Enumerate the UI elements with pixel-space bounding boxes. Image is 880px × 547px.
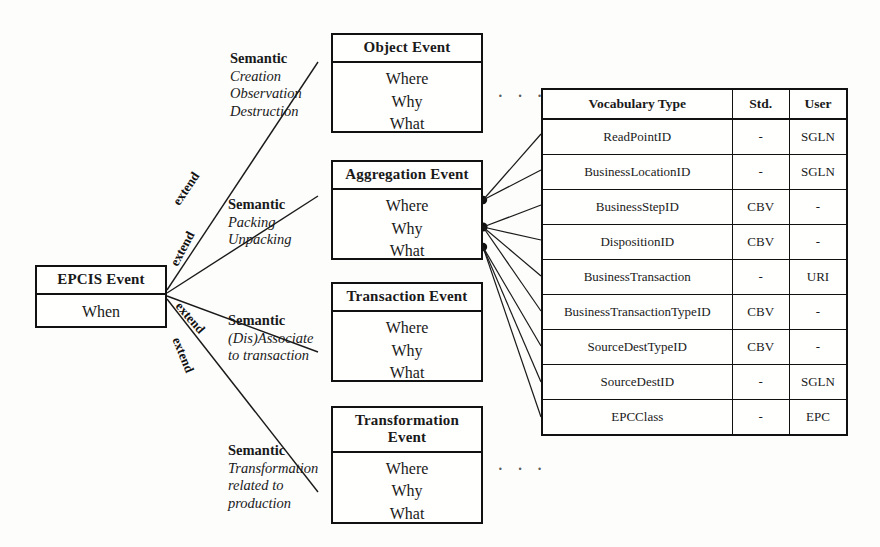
- transformation-event-title: Transformation Event: [333, 408, 481, 453]
- vocabulary-table-header-row: Vocabulary Type Std. User: [542, 89, 847, 119]
- transaction-event-body: Where Why What: [333, 312, 481, 391]
- cell-user: SGLN: [789, 119, 847, 155]
- cell-user: URI: [789, 260, 847, 295]
- object-event-body: Where Why What: [333, 63, 481, 142]
- semantic-note-aggregation: Semantic Packing Unpacking: [228, 196, 346, 249]
- cell-std: -: [732, 260, 789, 295]
- semantic-item-disassociate: (Dis)Associate: [228, 330, 346, 348]
- cell-user: -: [789, 330, 847, 365]
- semantic-item-transformation: Transformation: [228, 460, 346, 478]
- table-row: SourceDestTypeIDCBV-: [542, 330, 847, 365]
- epcis-event-box[interactable]: EPCIS Event When: [35, 265, 167, 328]
- cell-vocabulary-type: BusinessStepID: [542, 190, 732, 225]
- column-header-std: Std.: [732, 89, 789, 119]
- cell-vocabulary-type: BusinessLocationID: [542, 155, 732, 190]
- table-row: DispositionIDCBV-: [542, 225, 847, 260]
- table-row: BusinessLocationID-SGLN: [542, 155, 847, 190]
- cell-user: -: [789, 190, 847, 225]
- column-header-vocabulary-type: Vocabulary Type: [542, 89, 732, 119]
- edge-where-businesslocationid: [483, 170, 541, 200]
- edge-why-businesstransactiontypeid: [483, 227, 541, 311]
- cell-std: -: [732, 400, 789, 436]
- semantic-item-observation: Observation: [230, 85, 348, 103]
- epcis-event-attribute-when: When: [39, 301, 163, 324]
- semantic-item-packing: Packing: [228, 214, 346, 232]
- transformation-event-body: Where Why What: [333, 453, 481, 532]
- object-event-title-line: Object Event: [335, 39, 479, 56]
- aggregation-event-body: Where Why What: [333, 190, 481, 269]
- edge-what-sourcedesttypeid: [483, 247, 541, 346]
- vocabulary-type-table: Vocabulary Type Std. User ReadPointID-SG…: [541, 88, 848, 436]
- object-event-attribute-what: What: [335, 113, 479, 136]
- transaction-event-title-line: Transaction Event: [335, 288, 479, 305]
- edge-where-readpointid: [483, 134, 541, 200]
- transformation-event-title-line-2: Event: [335, 429, 479, 446]
- cell-std: CBV: [732, 295, 789, 330]
- ellipsis-bottom: · · ·: [497, 458, 547, 481]
- transformation-event-title-line-1: Transformation: [335, 412, 479, 429]
- extend-label-transformation: extend: [169, 335, 198, 375]
- semantic-item-related-to: related to: [228, 477, 346, 495]
- object-event-box[interactable]: Object Event Where Why What: [331, 33, 483, 133]
- semantic-note-transformation: Semantic Transformation related to produ…: [228, 442, 346, 513]
- table-row: ReadPointID-SGLN: [542, 119, 847, 155]
- where-vocab-edges: [483, 134, 541, 200]
- semantic-note-object: Semantic Creation Observation Destructio…: [230, 50, 348, 121]
- cell-vocabulary-type: ReadPointID: [542, 119, 732, 155]
- epcis-event-title: EPCIS Event: [37, 267, 165, 295]
- transformation-event-box[interactable]: Transformation Event Where Why What: [331, 406, 483, 524]
- cell-std: CBV: [732, 330, 789, 365]
- table-row: SourceDestID-SGLN: [542, 365, 847, 400]
- cell-std: CBV: [732, 225, 789, 260]
- transformation-event-attribute-what: What: [335, 503, 479, 526]
- semantic-item-destruction: Destruction: [230, 103, 348, 121]
- transaction-event-title: Transaction Event: [333, 284, 481, 312]
- object-event-attribute-why: Why: [335, 91, 479, 114]
- extend-label-object: extend: [169, 169, 203, 208]
- transformation-event-attribute-why: Why: [335, 480, 479, 503]
- diagram-canvas: extend extend extend extend EPCIS Event …: [0, 0, 880, 547]
- transaction-event-box[interactable]: Transaction Event Where Why What: [331, 282, 483, 382]
- cell-vocabulary-type: BusinessTransactionTypeID: [542, 295, 732, 330]
- semantic-heading-transaction: Semantic: [228, 312, 346, 330]
- transformation-event-attribute-where: Where: [335, 458, 479, 481]
- table-row: BusinessTransaction-URI: [542, 260, 847, 295]
- aggregation-event-box[interactable]: Aggregation Event Where Why What: [331, 160, 483, 260]
- transaction-event-attribute-what: What: [335, 362, 479, 385]
- epcis-event-body: When: [37, 295, 165, 328]
- cell-vocabulary-type: BusinessTransaction: [542, 260, 732, 295]
- extend-label-transaction: extend: [172, 299, 208, 337]
- vocabulary-table-body: ReadPointID-SGLNBusinessLocationID-SGLNB…: [542, 119, 847, 435]
- semantic-note-transaction: Semantic (Dis)Associate to transaction: [228, 312, 346, 365]
- semantic-item-unpacking: Unpacking: [228, 231, 346, 249]
- cell-vocabulary-type: SourceDestTypeID: [542, 330, 732, 365]
- extend-label-aggregation: extend: [167, 229, 198, 269]
- semantic-heading-transformation: Semantic: [228, 442, 346, 460]
- cell-std: -: [732, 365, 789, 400]
- cell-user: SGLN: [789, 365, 847, 400]
- object-event-attribute-where: Where: [335, 68, 479, 91]
- why-vocab-edges: [483, 205, 541, 311]
- edge-what-sourcedestid: [483, 247, 541, 382]
- cell-user: -: [789, 295, 847, 330]
- aggregation-event-title: Aggregation Event: [333, 162, 481, 190]
- cell-std: CBV: [732, 190, 789, 225]
- semantic-item-creation: Creation: [230, 68, 348, 86]
- aggregation-event-attribute-where: Where: [335, 195, 479, 218]
- cell-vocabulary-type: SourceDestID: [542, 365, 732, 400]
- edge-why-businesstransaction: [483, 227, 541, 276]
- table-row: EPCClass-EPC: [542, 400, 847, 436]
- semantic-item-production: production: [228, 495, 346, 513]
- aggregation-event-title-line: Aggregation Event: [335, 166, 479, 183]
- column-header-user: User: [789, 89, 847, 119]
- semantic-heading-aggregation: Semantic: [228, 196, 346, 214]
- transaction-event-attribute-why: Why: [335, 340, 479, 363]
- edge-why-dispositionid: [483, 227, 541, 240]
- edge-what-epcclass: [483, 247, 541, 417]
- aggregation-event-attribute-why: Why: [335, 218, 479, 241]
- extend-edges: [167, 62, 318, 492]
- semantic-item-to-transaction: to transaction: [228, 347, 346, 365]
- object-event-title: Object Event: [333, 35, 481, 63]
- transaction-event-attribute-where: Where: [335, 317, 479, 340]
- cell-std: -: [732, 155, 789, 190]
